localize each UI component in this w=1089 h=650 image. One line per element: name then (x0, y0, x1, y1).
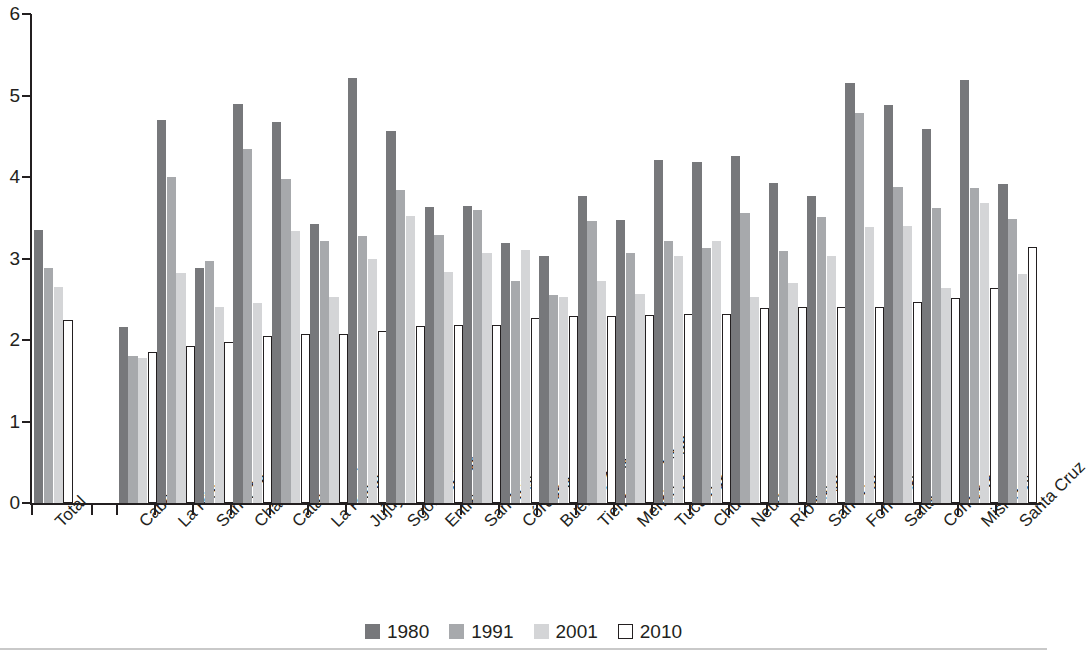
bar-1980 (348, 78, 357, 503)
bar-1991 (281, 179, 290, 503)
bar-group (195, 14, 234, 503)
x-axis-tick (613, 505, 615, 515)
bar-group (119, 14, 158, 503)
bar-2010 (63, 320, 72, 503)
legend-item-1991[interactable]: 1991 (449, 622, 513, 641)
bar-group (731, 14, 770, 503)
bar-2001 (138, 358, 147, 503)
bar-2010 (645, 315, 654, 503)
bar-1991 (664, 241, 673, 503)
bar-group (425, 14, 464, 503)
bar-2010 (798, 307, 807, 503)
bar-1980 (386, 131, 395, 503)
x-axis-tick (383, 505, 385, 515)
bar-1991 (434, 235, 443, 503)
bar-1991 (740, 213, 749, 503)
bar-1991 (473, 210, 482, 503)
bar-1980 (845, 83, 854, 503)
y-axis-tick-label: 1 (0, 412, 20, 431)
bar-group (922, 14, 961, 503)
x-axis-tick (422, 505, 424, 515)
bar-1991 (587, 221, 596, 503)
legend-swatch-icon (618, 624, 633, 639)
bar-1980 (157, 120, 166, 503)
bar-2001 (635, 294, 644, 503)
legend-label: 1991 (471, 622, 513, 641)
legend-item-1980[interactable]: 1980 (365, 622, 429, 641)
x-axis-tick (919, 505, 921, 515)
y-axis-tick-label: 4 (0, 167, 20, 186)
legend-swatch-icon (449, 624, 464, 639)
bar-2001 (980, 203, 989, 503)
x-axis-tick (575, 505, 577, 515)
bar-1980 (807, 196, 816, 503)
bar-1991 (817, 217, 826, 503)
bar-1980 (922, 129, 931, 503)
bar-group (310, 14, 349, 503)
bar-group (386, 14, 425, 503)
bar-1991 (549, 295, 558, 503)
bar-2010 (263, 336, 272, 503)
y-axis-tick-label: 2 (0, 330, 20, 349)
bar-1980 (463, 206, 472, 503)
legend-swatch-icon (534, 624, 549, 639)
x-axis-tick (154, 505, 156, 515)
x-axis-tick (345, 505, 347, 515)
bar-1991 (779, 251, 788, 503)
bar-1991 (320, 241, 329, 503)
x-axis-tick (192, 505, 194, 515)
bar-1980 (616, 220, 625, 503)
bar-2001 (444, 272, 453, 503)
bar-1980 (233, 104, 242, 503)
bar-2010 (186, 346, 195, 503)
legend-label: 2001 (556, 622, 598, 641)
bar-1980 (692, 162, 701, 503)
legend-item-2010[interactable]: 2010 (618, 622, 682, 641)
bar-group (539, 14, 578, 503)
bar-1991 (44, 268, 53, 503)
bar-1991 (358, 236, 367, 503)
y-axis-tick-label: 6 (0, 4, 20, 23)
bar-1991 (855, 113, 864, 503)
bar-2001 (865, 227, 874, 503)
bar-2010 (492, 325, 501, 503)
bar-2010 (569, 316, 578, 503)
bar-group (501, 14, 540, 503)
bar-1980 (769, 183, 778, 503)
bar-1980 (34, 230, 43, 503)
bar-2010 (951, 298, 960, 503)
x-axis-tick (498, 505, 500, 515)
bar-2010 (378, 331, 387, 503)
y-axis-tick-label: 5 (0, 86, 20, 105)
bar-2010 (339, 334, 348, 503)
bar-group (578, 14, 617, 503)
bar-1980 (272, 122, 281, 503)
bar-1991 (511, 281, 520, 503)
bar-1980 (425, 207, 434, 503)
y-axis-tick (22, 95, 31, 97)
legend-item-2001[interactable]: 2001 (534, 622, 598, 641)
bar-group (960, 14, 999, 503)
legend-label: 1980 (387, 622, 429, 641)
bar-1980 (539, 256, 548, 503)
y-axis-tick (22, 176, 31, 178)
bar-1980 (501, 243, 510, 503)
y-axis-tick (22, 13, 31, 15)
bar-group (654, 14, 693, 503)
bar-2010 (531, 318, 540, 503)
bar-1991 (167, 177, 176, 503)
y-axis-tick (22, 502, 31, 504)
bar-2010 (913, 302, 922, 503)
bar-2001 (750, 297, 759, 503)
legend-swatch-icon (365, 624, 380, 639)
bar-2001 (1018, 274, 1027, 503)
bar-2001 (941, 288, 950, 503)
bar-1991 (893, 187, 902, 503)
bar-2001 (597, 281, 606, 503)
x-axis-tick (728, 505, 730, 515)
bar-1980 (310, 224, 319, 503)
x-axis-tick (31, 505, 33, 515)
bar-2001 (674, 256, 683, 503)
bar-2001 (903, 226, 912, 503)
